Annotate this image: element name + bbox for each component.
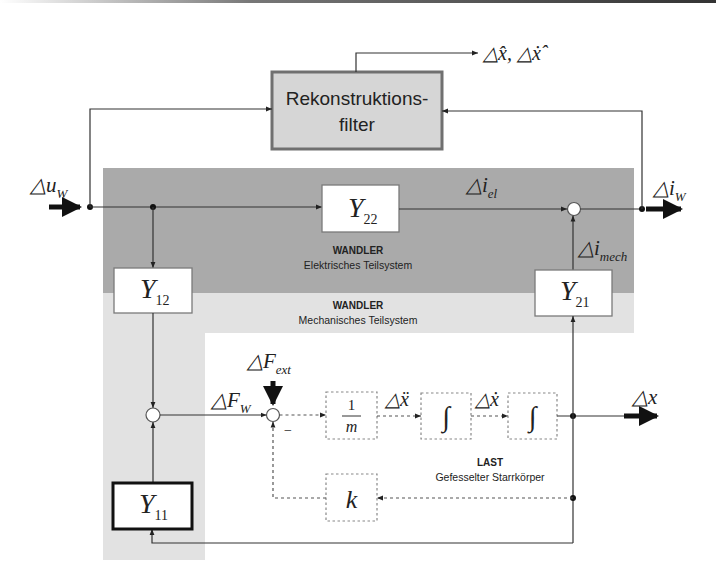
displacement-label: △x [631, 385, 658, 409]
reconstruction-filter-block: Rekonstruktions- filter [272, 72, 442, 149]
y22-block: Y22 [322, 185, 399, 232]
f-ext-symbol: △F [246, 349, 276, 373]
integrator-2-block: ∫ [508, 393, 557, 439]
output-current-subscript: W [675, 189, 687, 204]
inverse-mass-numerator: 1 [348, 397, 356, 413]
filter-label-line1: Rekonstruktions- [286, 88, 429, 109]
top-border [0, 0, 716, 3]
inverse-mass-denominator: m [346, 418, 358, 435]
stiffness-label: k [346, 485, 358, 514]
f-w-subscript: W [240, 401, 252, 416]
y21-subscript: 21 [576, 295, 590, 310]
load-summing-junction [267, 409, 280, 422]
output-current-symbol: △i [652, 176, 675, 200]
mechanical-region-title: WANDLER [333, 300, 384, 311]
y12-block: Y12 [114, 268, 192, 313]
load-region-title: LAST [477, 457, 503, 468]
force-summing-junction [146, 408, 160, 422]
input-voltage-subscript: W [57, 186, 69, 201]
electrical-region-title: WANDLER [333, 245, 384, 256]
f-ext-label: △Fext [246, 349, 291, 377]
integrator-1-block: ∫ [421, 393, 471, 439]
i-mech-subscript: mech [600, 249, 627, 264]
filter-output-label: △x̂, △ẋ̂ [482, 42, 549, 64]
filter-output-arrow [356, 53, 478, 72]
input-voltage-symbol: △u [29, 173, 57, 197]
f-ext-subscript: ext [276, 362, 292, 377]
electrical-region-subtitle: Elektrisches Teilsystem [304, 259, 413, 271]
y22-subscript: 22 [364, 212, 378, 227]
f-w-symbol: △F [210, 388, 240, 412]
load-region-subtitle: Gefesselter Starrkörper [435, 471, 545, 483]
acceleration-label: △ẍ [384, 388, 409, 410]
y21-block: Y21 [535, 270, 612, 316]
output-current-label: △iW [652, 176, 687, 204]
i-el-subscript: el [488, 186, 498, 201]
inverse-mass-block: 1 m [326, 392, 377, 439]
stiffness-feedback-arrow [273, 422, 326, 499]
input-voltage-label: △uW [29, 173, 69, 201]
current-summing-junction [568, 203, 581, 216]
velocity-label: △ẋ [474, 388, 499, 410]
y11-subscript: 11 [155, 508, 168, 523]
i-el-symbol: △i [465, 173, 488, 197]
y12-subscript: 12 [156, 293, 170, 308]
i-mech-symbol: △i [577, 236, 600, 260]
filter-label-line2: filter [339, 114, 376, 135]
y11-input-arrow [152, 529, 573, 543]
f-w-label: △FW [210, 388, 252, 416]
y11-block: Y11 [113, 483, 192, 529]
block-diagram: Rekonstruktions- filter △x̂, △ẋ̂ △uW Y2… [0, 0, 716, 584]
minus-sign: − [284, 423, 292, 438]
stiffness-block: k [326, 474, 377, 521]
mechanical-region-subtitle: Mechanisches Teilsystem [299, 314, 418, 326]
